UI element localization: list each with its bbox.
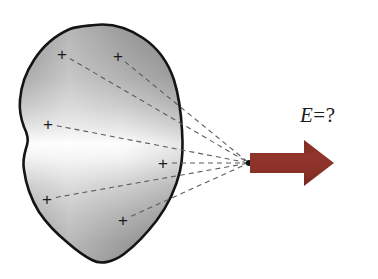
question-mark: ?: [326, 103, 336, 127]
field-label: E=?: [300, 103, 336, 128]
charge-5: +: [42, 190, 52, 209]
charge-4: +: [158, 154, 168, 173]
equals-sign: =: [313, 103, 325, 127]
charge-2: +: [113, 47, 123, 66]
charge-6: +: [118, 211, 128, 230]
field-symbol: E: [300, 103, 313, 127]
charge-1: +: [57, 45, 67, 64]
diagram-svg: + + + + + +: [0, 0, 378, 279]
field-vector-arrow: [250, 140, 334, 186]
charge-3: +: [43, 115, 53, 134]
charged-blob: [18, 20, 188, 268]
figure-canvas: + + + + + + E=?: [0, 0, 378, 279]
arrow-body: [250, 140, 334, 186]
